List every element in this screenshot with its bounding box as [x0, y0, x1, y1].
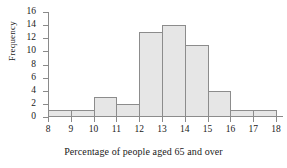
x-tick-label: 17	[243, 124, 263, 135]
y-tick: 4	[43, 91, 48, 92]
y-axis-title: Frequency	[7, 1, 17, 81]
x-tick	[139, 117, 140, 122]
histogram-bar	[162, 25, 186, 117]
x-tick	[276, 117, 277, 122]
y-tick-label: 2	[31, 98, 36, 109]
x-tick-label: 11	[106, 124, 126, 135]
x-tick	[230, 117, 231, 122]
x-tick	[48, 117, 49, 122]
y-tick: 10	[43, 51, 48, 52]
histogram-bar	[253, 110, 277, 117]
x-tick-label: 15	[198, 124, 218, 135]
y-tick-label: 4	[31, 85, 36, 96]
y-tick-label: 16	[27, 6, 37, 17]
histogram-bar	[94, 97, 118, 117]
y-tick: 2	[43, 104, 48, 105]
histogram-bar	[208, 91, 232, 117]
y-tick: 12	[43, 38, 48, 39]
histogram-bar	[230, 110, 254, 117]
y-tick: 8	[43, 65, 48, 66]
x-tick-label: 16	[220, 124, 240, 135]
histogram-bar	[48, 110, 72, 117]
y-tick-label: 12	[27, 32, 37, 43]
histogram-bar	[139, 32, 163, 117]
x-tick-label: 12	[129, 124, 149, 135]
x-tick	[94, 117, 95, 122]
x-tick	[71, 117, 72, 122]
x-tick	[208, 117, 209, 122]
x-tick	[253, 117, 254, 122]
x-tick-label: 9	[61, 124, 81, 135]
x-tick	[116, 117, 117, 122]
histogram-bar	[185, 45, 209, 117]
y-tick-label: 10	[27, 45, 37, 56]
histogram-bar	[71, 110, 95, 117]
y-axis-line	[48, 12, 49, 117]
x-axis-title: Percentage of people aged 65 and over	[0, 146, 287, 157]
plot-area: 0246810121416 89101112131415161718	[48, 12, 276, 117]
x-tick-label: 8	[38, 124, 58, 135]
y-tick-label: 6	[31, 72, 36, 83]
x-tick-label: 18	[266, 124, 286, 135]
histogram-figure: Frequency 0246810121416 8910111213141516…	[0, 0, 287, 168]
x-tick	[162, 117, 163, 122]
y-tick-label: 8	[31, 59, 36, 70]
y-tick-label: 14	[27, 19, 37, 30]
y-tick: 14	[43, 25, 48, 26]
x-tick	[185, 117, 186, 122]
x-tick-label: 10	[84, 124, 104, 135]
histogram-bar	[116, 104, 140, 117]
y-tick: 6	[43, 78, 48, 79]
y-tick-label: 0	[31, 111, 36, 122]
y-tick: 16	[43, 12, 48, 13]
x-tick-label: 13	[152, 124, 172, 135]
x-tick-label: 14	[175, 124, 195, 135]
